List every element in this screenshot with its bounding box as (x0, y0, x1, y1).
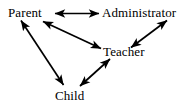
node-label-teacher: Teacher (103, 44, 145, 59)
edge-parent-child (21, 21, 64, 86)
relationship-diagram: Parent Administrator Teacher Child (0, 0, 194, 109)
edge-child-teacher (80, 59, 110, 86)
node-label-administrator: Administrator (102, 5, 176, 20)
node-label-child: Child (55, 88, 84, 103)
edge-parent-teacher (43, 22, 101, 49)
node-label-parent: Parent (8, 5, 42, 20)
